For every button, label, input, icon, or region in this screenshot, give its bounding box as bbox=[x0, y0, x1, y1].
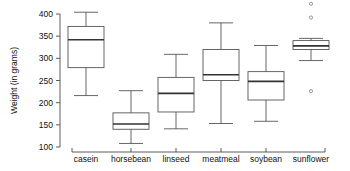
box-iqr bbox=[293, 41, 329, 50]
y-tick-label: 300 bbox=[39, 53, 53, 63]
x-tick-label-soybean: soybean bbox=[250, 154, 282, 164]
box-iqr bbox=[203, 49, 239, 80]
y-tick-label: 150 bbox=[39, 120, 53, 130]
y-axis: 100150200250300350400 bbox=[39, 9, 60, 152]
outlier-point bbox=[309, 90, 312, 93]
box-sunflower bbox=[293, 2, 329, 93]
y-axis-title: Weight (in grams) bbox=[9, 47, 19, 114]
box-casein bbox=[68, 12, 104, 95]
box-iqr bbox=[158, 77, 194, 112]
x-axis-tick-labels: caseinhorsebeanlinseedmeatmealsoybeansun… bbox=[74, 154, 330, 164]
box-iqr bbox=[68, 26, 104, 67]
outlier-point bbox=[309, 16, 312, 19]
box-horsebean bbox=[113, 91, 149, 144]
y-tick-label: 200 bbox=[39, 98, 53, 108]
outlier-point bbox=[309, 2, 312, 5]
box-iqr bbox=[113, 113, 149, 129]
box-linseed bbox=[158, 54, 194, 128]
x-tick-label-horsebean: horsebean bbox=[111, 154, 151, 164]
y-axis-title-text: Weight (in grams) bbox=[9, 47, 19, 114]
y-tick-label: 350 bbox=[39, 31, 53, 41]
y-tick-label: 400 bbox=[39, 9, 53, 19]
boxplot-canvas: 100150200250300350400 Weight (in grams) … bbox=[0, 0, 350, 171]
y-tick-label: 250 bbox=[39, 76, 53, 86]
box-soybean bbox=[248, 45, 284, 121]
x-tick-label-linseed: linseed bbox=[163, 154, 190, 164]
y-tick-label: 100 bbox=[39, 142, 53, 152]
x-tick-label-meatmeal: meatmeal bbox=[202, 154, 239, 164]
x-axis bbox=[72, 148, 325, 152]
box-meatmeal bbox=[203, 23, 239, 124]
box-series bbox=[68, 2, 329, 143]
x-axis-line bbox=[72, 148, 325, 152]
boxplot-figure: 100150200250300350400 Weight (in grams) … bbox=[0, 0, 350, 171]
box-iqr bbox=[248, 72, 284, 100]
x-tick-label-sunflower: sunflower bbox=[293, 154, 330, 164]
x-tick-label-casein: casein bbox=[74, 154, 99, 164]
